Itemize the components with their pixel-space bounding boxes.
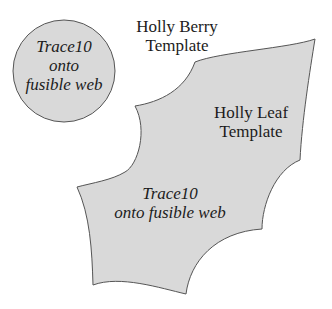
berry-title-line2: Template xyxy=(112,36,242,55)
berry-instr-line1: Trace10 xyxy=(14,37,114,56)
leaf-instr-line2: onto fusible web xyxy=(95,203,245,222)
berry-title-line1: Holly Berry xyxy=(112,17,242,36)
holly-berry-instructions: Trace10 onto fusible web xyxy=(14,37,114,94)
holly-leaf-instructions: Trace10 onto fusible web xyxy=(95,184,245,222)
holly-berry-title: Holly Berry Template xyxy=(112,17,242,55)
leaf-instr-line1: Trace10 xyxy=(95,184,245,203)
leaf-title-line1: Holly Leaf xyxy=(186,103,316,122)
leaf-title-line2: Template xyxy=(186,122,316,141)
holly-leaf-title: Holly Leaf Template xyxy=(186,103,316,141)
berry-instr-line2: onto xyxy=(14,56,114,75)
berry-instr-line3: fusible web xyxy=(14,75,114,94)
